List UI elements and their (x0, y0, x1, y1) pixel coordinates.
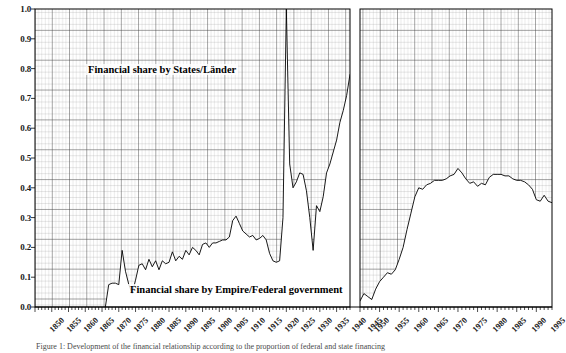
x-tick-label-1855: 1855 (64, 315, 83, 334)
x-tick-label-1885: 1885 (164, 315, 183, 334)
x-tick-label-1900: 1900 (215, 315, 234, 334)
x-tick-label-1875: 1875 (131, 315, 150, 334)
x-tick-label-1895: 1895 (198, 315, 217, 334)
x-axis-tick-labels: 1850185518601865187018751880188518901895… (0, 0, 566, 353)
x-tick-label-1880: 1880 (148, 315, 167, 334)
x-tick-label-1980: 1980 (490, 315, 509, 334)
x-tick-label-1935: 1935 (332, 315, 351, 334)
figure-container: 0.00.10.20.30.40.50.60.70.80.91.0 185018… (0, 0, 566, 353)
x-tick-label-1975: 1975 (470, 315, 489, 334)
x-tick-label-1925: 1925 (298, 315, 317, 334)
x-tick-label-1970: 1970 (450, 315, 469, 334)
x-tick-label-1870: 1870 (114, 315, 133, 334)
x-tick-label-1860: 1860 (80, 315, 99, 334)
x-tick-label-1890: 1890 (181, 315, 200, 334)
annotation-federal-share: Financial share by Empire/Federal govern… (128, 284, 345, 295)
x-tick-label-1915: 1915 (265, 315, 284, 334)
x-tick-label-1990: 1990 (529, 315, 548, 334)
x-tick-label-1960: 1960 (411, 315, 430, 334)
x-tick-label-1905: 1905 (231, 315, 250, 334)
x-tick-label-1910: 1910 (248, 315, 267, 334)
x-tick-label-1985: 1985 (509, 315, 528, 334)
x-tick-label-1850: 1850 (47, 315, 66, 334)
x-tick-label-1865: 1865 (97, 315, 116, 334)
x-tick-label-1955: 1955 (392, 315, 411, 334)
x-tick-label-1965: 1965 (431, 315, 450, 334)
annotation-states-share: Financial share by States/Länder (86, 64, 238, 75)
x-tick-label-1995: 1995 (548, 315, 566, 334)
x-tick-label-1940: 1940 (349, 315, 368, 334)
x-tick-label-1930: 1930 (315, 315, 334, 334)
figure-caption: Figure 1: Development of the financial r… (36, 341, 556, 352)
x-tick-label-1920: 1920 (282, 315, 301, 334)
